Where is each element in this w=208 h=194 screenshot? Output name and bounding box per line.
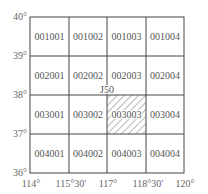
- cell-label: 001004: [150, 31, 180, 42]
- lat-label: 40°: [13, 11, 27, 22]
- cell-label: 001001: [35, 31, 65, 42]
- cell-label: 002004: [150, 70, 180, 81]
- cell-label: 003002: [73, 109, 103, 120]
- lon-label: 117°: [99, 178, 118, 189]
- lon-label: 118°30′: [133, 178, 164, 189]
- map-sheet-grid-diagram: 001001 001002 001003 001004 002001 00200…: [0, 0, 208, 194]
- cell-label: 004003: [112, 148, 142, 159]
- cell-label: 004001: [35, 148, 65, 159]
- cell-label: 003001: [35, 109, 65, 120]
- lat-label: 38°: [13, 89, 27, 100]
- cell-label: 002002: [73, 70, 103, 81]
- lat-label: 36°: [13, 167, 27, 178]
- cell-label: 003004: [150, 109, 180, 120]
- cell-label: 002001: [35, 70, 65, 81]
- latitude-labels: 40° 39° 38° 37° 36°: [13, 11, 27, 178]
- cell-label: 004004: [150, 148, 180, 159]
- cell-label-highlighted: 003003: [112, 109, 142, 120]
- cell-label: 001002: [73, 31, 103, 42]
- sheet-label: J50: [100, 84, 114, 95]
- lat-label: 37°: [13, 128, 27, 139]
- cell-label: 002003: [112, 70, 142, 81]
- lon-label: 115°30′: [56, 178, 87, 189]
- lat-label: 39°: [13, 50, 27, 61]
- cell-label: 001003: [112, 31, 142, 42]
- cell-label: 004002: [73, 148, 103, 159]
- lon-label: 120°: [176, 178, 195, 189]
- lon-label: 114°: [22, 178, 41, 189]
- longitude-labels: 114° 115°30′ 117° 118°30′ 120°: [22, 178, 195, 189]
